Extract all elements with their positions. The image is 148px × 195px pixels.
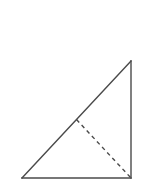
figure-background [0, 0, 148, 195]
triangle-diagram [0, 0, 148, 195]
geometry-figure [0, 0, 148, 195]
